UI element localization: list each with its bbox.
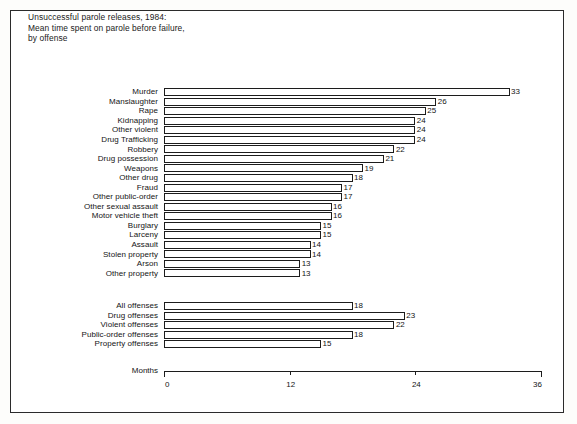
bar-weapons — [164, 164, 363, 172]
bar-kidnapping — [164, 117, 415, 125]
category-label-all-offenses: All offenses — [18, 302, 158, 310]
bar-other-property — [164, 269, 300, 277]
bar-value-assault: 14 — [312, 241, 321, 249]
category-label-drug-trafficking: Drug Trafficking — [18, 136, 158, 144]
bar-value-other-property: 13 — [302, 270, 311, 278]
bar-other-sexual-assault — [164, 203, 332, 211]
bar-value-other-drug: 18 — [354, 174, 363, 182]
category-label-larceny: Larceny — [18, 231, 158, 239]
category-label-fraud: Fraud — [18, 184, 158, 192]
bar-value-drug-possession: 21 — [385, 155, 394, 163]
x-axis-tick-36 — [541, 371, 542, 377]
category-label-other-property: Other property — [18, 270, 158, 278]
bar-value-violent-offenses: 22 — [396, 321, 405, 329]
bar-other-drug — [164, 174, 353, 182]
bar-value-burglary: 15 — [323, 222, 332, 230]
bar-burglary — [164, 222, 321, 230]
bar-value-property-offenses: 15 — [323, 340, 332, 348]
bar-value-kidnapping: 24 — [417, 117, 426, 125]
bar-value-drug-offenses: 23 — [406, 312, 415, 320]
x-axis-tick-label-36: 36 — [533, 381, 542, 389]
x-axis-line — [164, 371, 542, 372]
bar-all-offenses — [164, 302, 353, 310]
category-label-other-public-order: Other public-order — [18, 193, 158, 201]
bar-value-other-public-order: 17 — [344, 193, 353, 201]
bar-value-stolen-property: 14 — [312, 251, 321, 259]
category-label-property-offenses: Property offenses — [18, 340, 158, 348]
bar-property-offenses — [164, 340, 321, 348]
bar-value-drug-trafficking: 24 — [417, 136, 426, 144]
bar-fraud — [164, 184, 342, 192]
category-label-drug-offenses: Drug offenses — [18, 312, 158, 320]
category-label-other-sexual-assault: Other sexual assault — [18, 203, 158, 211]
category-label-public-order-offenses: Public-order offenses — [18, 331, 158, 339]
axis-title-months: Months — [18, 367, 158, 375]
bar-value-fraud: 17 — [344, 184, 353, 192]
bar-public-order-offenses — [164, 331, 353, 339]
bar-robbery — [164, 145, 394, 153]
bar-manslaughter — [164, 98, 436, 106]
x-axis-tick-label-12: 12 — [286, 381, 295, 389]
bar-value-murder: 33 — [511, 88, 520, 96]
category-label-other-drug: Other drug — [18, 174, 158, 182]
bar-murder — [164, 88, 510, 96]
bar-value-other-violent: 24 — [417, 126, 426, 134]
x-axis-tick-label-24: 24 — [412, 381, 421, 389]
category-label-assault: Assault — [18, 241, 158, 249]
category-label-motor-vehicle-theft: Motor vehicle theft — [18, 212, 158, 220]
bar-arson — [164, 260, 300, 268]
bar-value-all-offenses: 18 — [354, 302, 363, 310]
chart-figure: Unsuccessful parole releases, 1984: Mean… — [0, 0, 577, 424]
category-label-violent-offenses: Violent offenses — [18, 321, 158, 329]
x-axis-tick-12 — [290, 371, 291, 375]
bar-value-arson: 13 — [302, 260, 311, 268]
bar-motor-vehicle-theft — [164, 212, 332, 220]
x-axis-tick-0 — [164, 371, 165, 377]
bar-violent-offenses — [164, 321, 394, 329]
bar-value-other-sexual-assault: 16 — [333, 203, 342, 211]
bar-stolen-property — [164, 250, 311, 258]
bar-value-manslaughter: 26 — [438, 98, 447, 106]
category-label-stolen-property: Stolen property — [18, 251, 158, 259]
bar-assault — [164, 241, 311, 249]
category-label-robbery: Robbery — [18, 146, 158, 154]
category-label-kidnapping: Kidnapping — [18, 117, 158, 125]
category-label-drug-possession: Drug possession — [18, 155, 158, 163]
category-label-weapons: Weapons — [18, 165, 158, 173]
bar-value-rape: 25 — [427, 107, 436, 115]
bar-value-public-order-offenses: 18 — [354, 331, 363, 339]
x-axis-tick-24 — [415, 371, 416, 375]
bar-other-public-order — [164, 193, 342, 201]
plot-area: Murder33Manslaughter26Rape25Kidnapping24… — [0, 0, 577, 424]
bar-drug-trafficking — [164, 136, 415, 144]
bar-value-motor-vehicle-theft: 16 — [333, 212, 342, 220]
category-label-other-violent: Other violent — [18, 126, 158, 134]
bar-value-robbery: 22 — [396, 146, 405, 154]
bar-larceny — [164, 231, 321, 239]
bar-drug-possession — [164, 155, 384, 163]
bar-value-weapons: 19 — [364, 165, 373, 173]
x-axis-tick-label-0: 0 — [165, 381, 169, 389]
category-label-burglary: Burglary — [18, 222, 158, 230]
category-label-manslaughter: Manslaughter — [18, 98, 158, 106]
bar-other-violent — [164, 126, 415, 134]
category-label-arson: Arson — [18, 260, 158, 268]
bar-rape — [164, 107, 426, 115]
bar-drug-offenses — [164, 312, 405, 320]
category-label-murder: Murder — [18, 88, 158, 96]
category-label-rape: Rape — [18, 107, 158, 115]
bar-value-larceny: 15 — [323, 231, 332, 239]
